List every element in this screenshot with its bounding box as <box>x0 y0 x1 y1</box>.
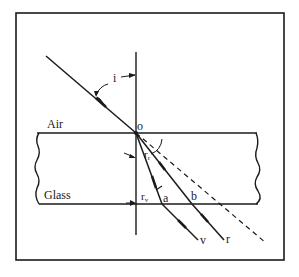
glass-label: Glass <box>44 189 71 201</box>
violet-emergent-arrow-icon <box>178 220 186 228</box>
angle-rv-normal-arrow-icon <box>130 200 136 206</box>
red-ray-arrow-icon <box>159 162 165 170</box>
air-label: Air <box>47 118 63 130</box>
outer-frame <box>16 13 284 260</box>
angle-rr-normal-arrow-icon <box>129 154 136 158</box>
violet-ray-arrow-icon <box>152 176 156 188</box>
angle-rv-label: rv <box>141 191 148 204</box>
red-emergent-arrow-icon <box>201 214 208 222</box>
incident-arrow <box>96 98 106 107</box>
violet-ray-label: v <box>200 234 206 246</box>
glass-left-break-edge <box>35 133 39 204</box>
angle-rv-subscript: v <box>145 196 149 204</box>
refraction-diagram <box>0 0 299 277</box>
angle-i-label: i <box>113 72 116 84</box>
violet-refracted-ray <box>136 133 162 204</box>
origin-point-label: o <box>137 120 143 132</box>
angle-rr-subscript: r <box>148 154 150 162</box>
angle-i-arrow-icon <box>94 91 99 97</box>
glass-right-break-edge <box>255 133 260 204</box>
angle-rr-label: rr <box>144 149 150 162</box>
exit-point-a-label: a <box>163 192 168 204</box>
exit-point-b-label: b <box>191 190 197 202</box>
red-ray-label: r <box>226 233 230 245</box>
